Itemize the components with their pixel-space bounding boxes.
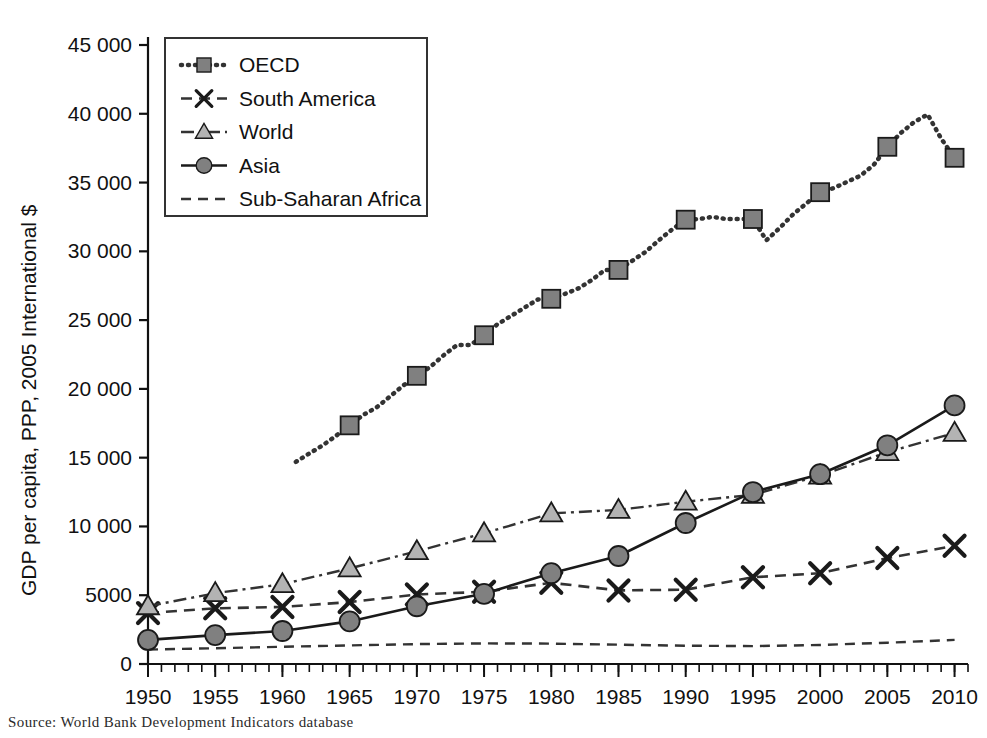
y-tick-label: 10 000 — [68, 514, 132, 537]
legend-label: World — [239, 120, 293, 143]
data-point-marker — [340, 611, 360, 631]
data-point-marker — [677, 211, 695, 229]
data-point-marker — [744, 210, 762, 228]
y-tick-label: 35 000 — [68, 171, 132, 194]
x-tick-label: 1955 — [192, 685, 239, 708]
legend-label: OECD — [239, 53, 300, 76]
data-point-marker — [609, 261, 627, 279]
gdp-per-capita-line-chart: GDP per capita, PPP, 2005 International … — [0, 0, 987, 738]
data-point-marker — [542, 290, 560, 308]
data-point-marker — [474, 584, 494, 604]
x-tick-label: 1970 — [393, 685, 440, 708]
data-point-marker — [608, 546, 628, 566]
data-point-marker — [676, 513, 696, 533]
y-tick-label: 5000 — [85, 583, 132, 606]
y-tick-label: 30 000 — [68, 239, 132, 262]
x-tick-label: 1980 — [528, 685, 575, 708]
data-point-marker — [341, 416, 359, 434]
data-point-marker — [811, 183, 829, 201]
legend-marker-sample — [196, 158, 212, 174]
data-point-marker — [541, 563, 561, 583]
y-tick-label: 25 000 — [68, 308, 132, 331]
x-tick-label: 1990 — [662, 685, 709, 708]
y-axis-title: GDP per capita, PPP, 2005 International … — [17, 204, 40, 596]
chart-legend: OECDSouth AmericaWorldAsiaSub-Saharan Af… — [165, 38, 427, 216]
legend-label: Sub-Saharan Africa — [239, 187, 421, 210]
figure-container: GDP per capita, PPP, 2005 International … — [0, 0, 987, 738]
data-point-marker — [743, 482, 763, 502]
x-tick-label: 1960 — [259, 685, 306, 708]
data-point-marker — [272, 621, 292, 641]
x-tick-label: 1995 — [730, 685, 777, 708]
y-axis-title-text: GDP per capita, PPP, 2005 International … — [17, 204, 40, 596]
x-tick-label: 1975 — [461, 685, 508, 708]
data-point-marker — [810, 464, 830, 484]
legend-label: South America — [239, 87, 376, 110]
data-point-marker — [946, 149, 964, 167]
data-point-marker — [205, 625, 225, 645]
data-point-marker — [945, 395, 965, 415]
x-tick-label: 2000 — [797, 685, 844, 708]
y-tick-label: 20 000 — [68, 377, 132, 400]
y-tick-label: 40 000 — [68, 102, 132, 125]
x-tick-label: 2010 — [931, 685, 978, 708]
y-tick-label: 0 — [120, 652, 132, 675]
x-tick-label: 2005 — [864, 685, 911, 708]
legend-label: Asia — [239, 154, 280, 177]
data-point-marker — [407, 596, 427, 616]
data-point-marker — [408, 367, 426, 385]
y-tick-label: 45 000 — [68, 33, 132, 56]
x-tick-label: 1985 — [595, 685, 642, 708]
legend-marker-sample — [197, 58, 211, 72]
data-point-marker — [877, 435, 897, 455]
source-note: Source: World Bank Development Indicator… — [8, 714, 354, 731]
y-tick-label: 15 000 — [68, 446, 132, 469]
data-point-marker — [475, 326, 493, 344]
x-tick-label: 1965 — [326, 685, 373, 708]
x-tick-label: 1950 — [125, 685, 172, 708]
data-point-marker — [138, 630, 158, 650]
data-point-marker — [878, 138, 896, 156]
